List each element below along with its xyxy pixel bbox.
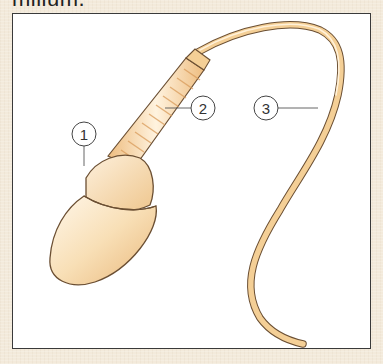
label-1-text: 1 [80,126,88,143]
label-1: 1 [72,122,96,166]
head [50,155,156,285]
tail [198,24,341,344]
label-3: 3 [254,96,318,120]
label-3-text: 3 [262,100,270,117]
label-2-text: 2 [199,100,207,117]
sperm-diagram: 1 2 3 [0,0,383,364]
